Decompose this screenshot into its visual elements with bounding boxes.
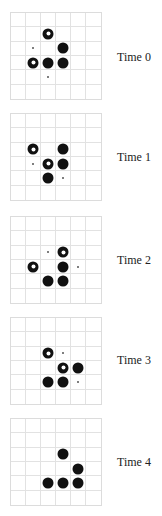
grid-cell bbox=[26, 42, 41, 56]
grid-cell bbox=[56, 85, 71, 99]
grid-cell bbox=[86, 157, 101, 171]
grid-cell bbox=[41, 361, 56, 375]
grid-cell bbox=[71, 231, 86, 245]
time-label: Time 1 bbox=[117, 150, 151, 165]
filled-disc-icon bbox=[43, 477, 54, 488]
filled-disc-icon bbox=[43, 172, 54, 183]
grid-cell bbox=[11, 491, 26, 505]
grid-cell bbox=[41, 70, 56, 84]
grid-cell bbox=[56, 448, 71, 462]
cell-grid bbox=[10, 216, 102, 304]
grid-cell bbox=[86, 217, 101, 231]
grid-cell bbox=[26, 419, 41, 433]
grid-cell bbox=[86, 476, 101, 490]
grid-cell bbox=[41, 157, 56, 171]
grid-frame-time-2 bbox=[10, 216, 102, 304]
grid-cell bbox=[11, 419, 26, 433]
grid-cell bbox=[26, 171, 41, 185]
grid-cell bbox=[56, 390, 71, 404]
grid-cell bbox=[41, 375, 56, 389]
grid-cell bbox=[41, 27, 56, 41]
grid-cell bbox=[41, 390, 56, 404]
grid-cell bbox=[41, 128, 56, 142]
grid-cell bbox=[11, 114, 26, 128]
grid-cell bbox=[86, 42, 101, 56]
grid-cell bbox=[41, 171, 56, 185]
filled-disc-icon bbox=[58, 144, 69, 155]
grid-cell bbox=[71, 157, 86, 171]
grid-cell bbox=[71, 13, 86, 27]
grid-cell bbox=[26, 128, 41, 142]
grid-cell bbox=[11, 27, 26, 41]
grid-cell bbox=[86, 186, 101, 200]
grid-cell bbox=[26, 448, 41, 462]
grid-cell bbox=[26, 13, 41, 27]
grid-cell bbox=[41, 56, 56, 70]
grid-cell bbox=[11, 231, 26, 245]
grid-cell bbox=[71, 433, 86, 447]
grid-cell bbox=[56, 27, 71, 41]
grid-cell bbox=[41, 143, 56, 157]
grid-cell bbox=[11, 217, 26, 231]
grid-cell bbox=[86, 171, 101, 185]
time-label: Time 2 bbox=[117, 253, 151, 268]
cell-grid bbox=[10, 12, 102, 100]
grid-cell bbox=[41, 85, 56, 99]
grid-cell bbox=[26, 231, 41, 245]
grid-cell bbox=[11, 289, 26, 303]
cell-grid bbox=[10, 317, 102, 405]
grid-cell bbox=[86, 231, 101, 245]
grid-cell bbox=[71, 27, 86, 41]
grid-cell bbox=[86, 419, 101, 433]
grid-frame-time-0 bbox=[10, 12, 102, 100]
filled-disc-icon bbox=[43, 57, 54, 68]
grid-cell bbox=[26, 491, 41, 505]
grid-cell bbox=[86, 143, 101, 157]
filled-disc-icon bbox=[73, 463, 84, 474]
grid-cell bbox=[11, 157, 26, 171]
hollow-ring-icon bbox=[58, 362, 69, 373]
grid-cell bbox=[56, 289, 71, 303]
grid-cell bbox=[86, 13, 101, 27]
grid-cell bbox=[11, 128, 26, 142]
filled-disc-icon bbox=[43, 376, 54, 387]
grid-cell bbox=[56, 274, 71, 288]
grid-cell bbox=[26, 433, 41, 447]
grid-cell bbox=[41, 274, 56, 288]
grid-cell bbox=[71, 70, 86, 84]
small-dot-icon bbox=[62, 177, 64, 179]
filled-disc-icon bbox=[73, 362, 84, 373]
grid-cell bbox=[41, 289, 56, 303]
grid-cell bbox=[86, 375, 101, 389]
grid-cell bbox=[11, 246, 26, 260]
grid-cell bbox=[56, 361, 71, 375]
grid-cell bbox=[56, 42, 71, 56]
grid-cell bbox=[86, 289, 101, 303]
hollow-ring-icon bbox=[43, 348, 54, 359]
grid-cell bbox=[71, 332, 86, 346]
grid-cell bbox=[41, 217, 56, 231]
grid-cell bbox=[71, 462, 86, 476]
grid-cell bbox=[11, 476, 26, 490]
grid-cell bbox=[26, 246, 41, 260]
grid-cell bbox=[71, 375, 86, 389]
time-label: Time 3 bbox=[117, 353, 151, 368]
small-dot-icon bbox=[62, 352, 64, 354]
grid-cell bbox=[26, 318, 41, 332]
grid-cell bbox=[26, 114, 41, 128]
filled-disc-icon bbox=[58, 158, 69, 169]
grid-cell bbox=[26, 217, 41, 231]
grid-cell bbox=[71, 448, 86, 462]
grid-cell bbox=[41, 114, 56, 128]
grid-cell bbox=[11, 375, 26, 389]
filled-disc-icon bbox=[73, 477, 84, 488]
grid-cell bbox=[71, 274, 86, 288]
grid-cell bbox=[41, 448, 56, 462]
grid-cell bbox=[41, 246, 56, 260]
grid-cell bbox=[11, 186, 26, 200]
small-dot-icon bbox=[47, 76, 49, 78]
grid-cell bbox=[56, 186, 71, 200]
grid-cell bbox=[86, 318, 101, 332]
filled-disc-icon bbox=[58, 43, 69, 54]
small-dot-icon bbox=[32, 163, 34, 165]
